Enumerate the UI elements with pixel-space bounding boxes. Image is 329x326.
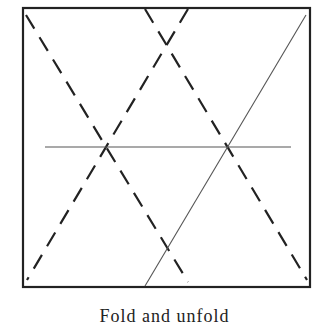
diagram-lines [26,9,307,286]
solid-line-ascending [145,15,306,286]
figure-caption: Fold and unfold [0,306,329,326]
dashed-line-ascending [27,9,188,280]
dashed-line-center-descending [145,9,307,280]
